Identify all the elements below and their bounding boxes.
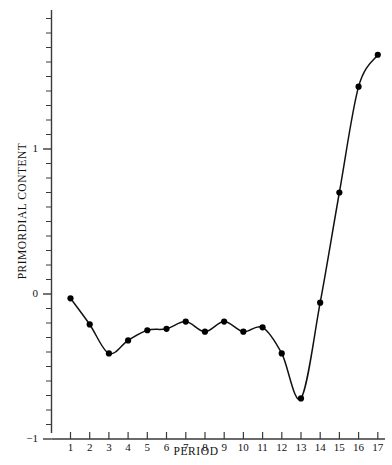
data-point <box>355 84 361 90</box>
data-point <box>259 324 265 330</box>
data-point <box>67 295 73 301</box>
y-axis-title: PRIMORDIAL CONTENT <box>16 131 28 291</box>
chart-figure: 1 0 −1 1234567891011121314151617 PERIOD … <box>0 0 392 465</box>
y-axis-minor-ticks <box>46 19 52 425</box>
plot-area <box>0 0 392 465</box>
x-axis-title: PERIOD <box>0 445 392 457</box>
x-axis-ticks <box>71 432 378 439</box>
data-point <box>221 318 227 324</box>
data-point <box>87 321 93 327</box>
data-point <box>279 350 285 356</box>
data-point <box>163 326 169 332</box>
data-point <box>317 300 323 306</box>
data-point <box>240 329 246 335</box>
y-tick-label-neg1: −1 <box>8 432 38 444</box>
data-point <box>125 337 131 343</box>
data-point <box>375 52 381 58</box>
data-point <box>336 189 342 195</box>
data-point <box>202 329 208 335</box>
data-point <box>144 327 150 333</box>
data-series-line <box>71 55 378 400</box>
data-point <box>106 350 112 356</box>
data-point <box>183 318 189 324</box>
data-point <box>298 395 304 401</box>
